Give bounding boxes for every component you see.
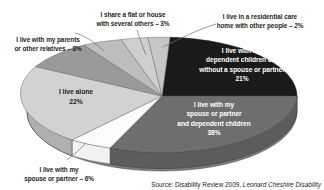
callout-parents-label: I live with my parents or other relative… <box>14 36 81 51</box>
slice-label-live-alone: I live alone 22% <box>34 77 118 116</box>
source-note: Source: Disability Review 2009, Leonard … <box>151 181 321 188</box>
source-prefix: Source: Disability Review 2009, <box>151 181 243 188</box>
slice-label-spouse-and-dependent-children: I live with my spouse or partner and dep… <box>140 90 288 147</box>
slice-label-dependent-children-no-partner: I live with my dependent children but wi… <box>170 36 314 93</box>
callout-share-flat-label: I share a flat or house with several oth… <box>96 11 169 26</box>
callout-spouse-or-partner: I live with my spouse or partner – 6% <box>0 158 118 183</box>
callout-spouse-partner-label: I live with my spouse or partner – 6% <box>24 166 94 181</box>
slice-label-spouse-children-percent: 38% <box>140 128 288 138</box>
slice-label-live-alone-text: I live alone <box>59 88 93 95</box>
slice-label-dependent-children-percent: 21% <box>170 74 314 84</box>
slice-label-dependent-children-text: I live with my dependent children but wi… <box>199 47 284 73</box>
source-publisher: Leonard Cheshire Disability <box>243 181 321 188</box>
callout-residential-care-home: I live in a residential care home with o… <box>200 5 320 30</box>
slice-label-spouse-children-text: I live with my spouse or partner and dep… <box>177 101 250 127</box>
pie-chart: I live with my parents or other relative… <box>0 0 324 190</box>
callout-parents-or-relatives: I live with my parents or other relative… <box>2 28 94 53</box>
callout-share-flat-or-house: I share a flat or house with several oth… <box>82 3 184 28</box>
callout-care-home-label: I live in a residential care home with o… <box>217 13 304 28</box>
slice-label-live-alone-percent: 22% <box>34 97 118 107</box>
